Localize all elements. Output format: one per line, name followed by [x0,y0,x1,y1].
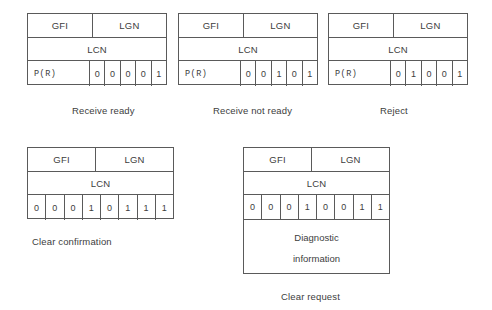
diagnostic-line-1: Diagnostic [294,227,338,248]
bit-cell: 0 [244,195,262,219]
packet-lcn-row: LCN [28,172,173,195]
bit-cell: 0 [101,195,119,220]
bit-cell: 0 [281,195,299,219]
packet-type-row: P(R) 0 0 1 0 1 [179,61,317,86]
field-lcn: LCN [329,38,467,60]
bit-cell: 0 [28,195,46,220]
bit-cell: 0 [335,195,353,219]
bit-cell: 1 [152,61,166,86]
packet-lcn-row: LCN [28,38,166,61]
field-pr: P(R) [329,61,391,86]
field-lcn: LCN [179,38,317,60]
bit-cell: 0 [422,61,437,86]
bit-cell: 1 [453,61,467,86]
field-lgn: LGN [244,14,317,37]
packet-receive-ready: GFI LGN LCN P(R) 0 0 0 0 1 [27,13,167,85]
bit-cell: 0 [105,61,120,86]
bit-cell: 1 [354,195,372,219]
packet-clear-request: GFI LGN LCN 0 0 0 1 0 0 1 1 Diagnostic i… [243,147,390,274]
bit-cell: 0 [121,61,136,86]
bit-cell: 0 [241,61,256,86]
bit-cell: 0 [136,61,151,86]
field-gfi: GFI [244,148,312,171]
caption-clear-confirmation: Clear confirmation [32,236,112,247]
packet-header-row: GFI LGN [179,14,317,38]
bit-cell: 1 [372,195,389,219]
field-gfi: GFI [329,14,394,37]
bit-cell: 0 [317,195,335,219]
bit-cell: 0 [90,61,105,86]
field-lcn: LCN [244,172,389,194]
packet-header-row: GFI LGN [28,14,166,38]
field-pr: P(R) [28,61,90,86]
field-gfi: GFI [179,14,244,37]
field-pr: P(R) [179,61,241,86]
caption-receive-not-ready: Receive not ready [213,105,292,116]
bit-cell: 0 [256,61,271,86]
packet-diagnostic-row: Diagnostic information [244,220,389,275]
field-lgn: LGN [93,14,166,37]
packet-lcn-row: LCN [329,38,467,61]
bit-cell: 0 [46,195,64,220]
packet-reject: GFI LGN LCN P(R) 0 1 0 0 1 [328,13,468,85]
bit-cell: 0 [287,61,302,86]
field-gfi: GFI [28,148,96,171]
field-lcn: LCN [28,172,173,194]
bit-cell: 0 [65,195,83,220]
caption-clear-request: Clear request [281,291,340,302]
caption-receive-ready: Receive ready [72,105,135,116]
packet-type-row: P(R) 0 1 0 0 1 [329,61,467,86]
field-lcn: LCN [28,38,166,60]
field-lgn: LGN [312,148,389,171]
packet-receive-not-ready: GFI LGN LCN P(R) 0 0 1 0 1 [178,13,318,85]
caption-reject: Reject [380,105,408,116]
packet-type-row: 0 0 0 1 0 0 1 1 [244,195,389,220]
diagnostic-line-2: information [293,248,340,269]
bit-cell: 1 [299,195,317,219]
bit-cell: 0 [391,61,406,86]
field-lgn: LGN [96,148,173,171]
field-gfi: GFI [28,14,93,37]
packet-clear-confirmation: GFI LGN LCN 0 0 0 1 0 1 1 1 [27,147,174,219]
packet-format-diagram: GFI LGN LCN P(R) 0 0 0 0 1 Receive ready… [0,0,492,310]
bit-cell: 1 [138,195,156,220]
bit-cell: 1 [119,195,137,220]
packet-lcn-row: LCN [244,172,389,195]
packet-header-row: GFI LGN [329,14,467,38]
bit-cell: 0 [437,61,452,86]
packet-lcn-row: LCN [179,38,317,61]
bit-cell: 1 [303,61,317,86]
bit-cell: 1 [156,195,173,220]
bit-cell: 1 [83,195,101,220]
bit-cell: 0 [262,195,280,219]
packet-type-row: 0 0 0 1 0 1 1 1 [28,195,173,220]
packet-header-row: GFI LGN [28,148,173,172]
field-lgn: LGN [394,14,467,37]
bit-cell: 1 [272,61,287,86]
bit-cell: 1 [406,61,421,86]
packet-type-row: P(R) 0 0 0 0 1 [28,61,166,86]
packet-header-row: GFI LGN [244,148,389,172]
